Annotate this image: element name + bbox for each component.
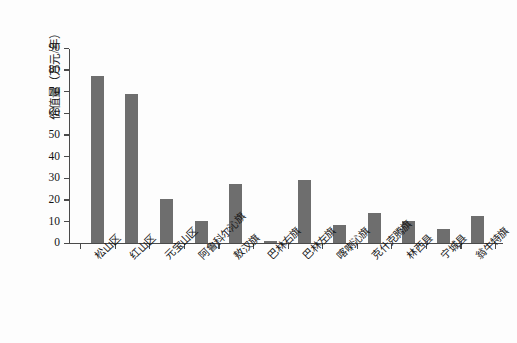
bar [471, 216, 484, 243]
y-axis-tick-label: 20 [49, 194, 61, 206]
y-axis-tick: 80 [64, 69, 69, 70]
y-axis-tick: 40 [64, 156, 69, 157]
plot-area: 9080706050403020100 [69, 49, 503, 244]
y-axis-tick: 60 [64, 113, 69, 114]
y-axis-tick-label: 70 [49, 86, 61, 98]
y-axis-line [69, 49, 70, 244]
bar [91, 76, 104, 243]
y-axis-tick-label: 10 [49, 216, 61, 228]
bar [437, 229, 450, 243]
y-axis-tick: 50 [64, 134, 69, 135]
y-axis-tick-label: 80 [49, 64, 61, 76]
bar [160, 199, 173, 242]
y-axis-tick: 70 [64, 91, 69, 92]
bar [368, 213, 381, 242]
y-axis-tick: 10 [64, 221, 69, 222]
y-axis-tick: 90 [64, 48, 69, 49]
y-axis-tick: 20 [64, 199, 69, 200]
x-axis-labels: 松山区红山区元宝山区阿鲁科尔沁旗敖汉旗巴林右旗巴林左旗喀喇沁旗克什克腾旗林西县宁… [69, 244, 517, 343]
bar-chart: 价值量（万元/年） 9080706050403020100 松山区红山区元宝山区… [0, 0, 517, 343]
y-axis-tick-label: 60 [49, 108, 61, 120]
y-axis-tick-label: 50 [49, 129, 61, 141]
bar [125, 94, 138, 242]
y-axis-tick-label: 40 [49, 151, 61, 163]
y-axis-tick-label: 30 [49, 173, 61, 185]
y-axis-tick-label: 90 [49, 43, 61, 55]
y-axis-tick: 30 [64, 178, 69, 179]
y-axis-tick-label: 0 [54, 238, 60, 250]
bar [264, 241, 277, 242]
